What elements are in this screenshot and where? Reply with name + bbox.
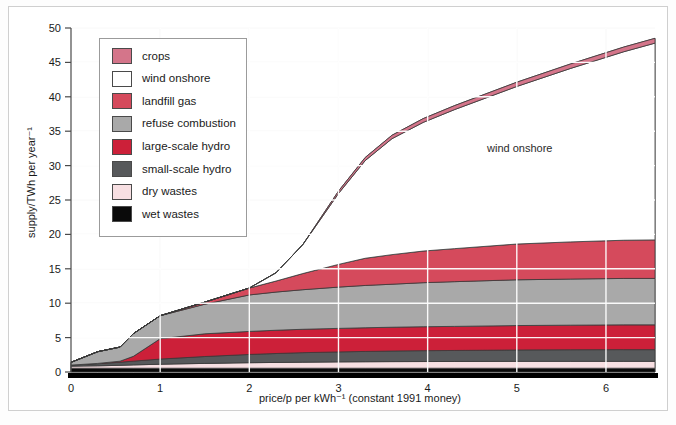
legend-item-label: wet wastes xyxy=(142,209,199,221)
legend-swatch-icon xyxy=(112,161,132,177)
annotation-wind-onshore-text: wind onshore xyxy=(487,142,552,154)
chart-figure: 051015202530354045500123456 supply/TWh p… xyxy=(0,0,676,425)
y-tick-label: 45 xyxy=(49,56,61,68)
y-tick-label: 30 xyxy=(49,160,61,172)
legend-swatch-icon xyxy=(112,139,132,155)
legend-item-label: large-scale hydro xyxy=(142,141,230,153)
legend-item[interactable]: refuse combustion xyxy=(100,113,246,136)
x-axis-title-text: price/p per kWh⁻¹ (constant 1991 money) xyxy=(259,392,461,404)
legend-item-label: crops xyxy=(142,51,170,63)
legend-swatch-icon xyxy=(112,71,132,87)
x-tick-label: 6 xyxy=(603,382,609,394)
legend-item[interactable]: large-scale hydro xyxy=(100,135,246,158)
legend-item-label: landfill gas xyxy=(142,96,196,108)
y-tick-label: 0 xyxy=(55,366,61,378)
legend-item[interactable]: small-scale hydro xyxy=(100,158,246,181)
legend-swatch-icon xyxy=(112,48,132,64)
legend-item[interactable]: crops xyxy=(100,45,246,68)
y-tick-label: 15 xyxy=(49,263,61,275)
y-tick-label: 35 xyxy=(49,125,61,137)
legend-swatch-icon xyxy=(112,206,132,222)
y-axis-title-text: supply/TWh per year⁻¹ xyxy=(25,127,37,238)
legend-item[interactable]: wind onshore xyxy=(100,68,246,91)
legend-item-label: wind onshore xyxy=(142,73,210,85)
x-tick-label: 0 xyxy=(68,382,74,394)
y-tick-label: 10 xyxy=(49,297,61,309)
area-wet-wastes xyxy=(71,368,655,372)
legend-swatch-icon xyxy=(112,93,132,109)
legend-item-label: dry wastes xyxy=(142,186,197,198)
legend-item[interactable]: wet wastes xyxy=(100,203,246,226)
legend-swatch-icon xyxy=(112,184,132,200)
chart-legend: cropswind onshorelandfill gasrefuse comb… xyxy=(99,38,247,237)
x-axis-line xyxy=(68,373,658,378)
y-tick-label: 50 xyxy=(49,22,61,34)
y-tick-label: 25 xyxy=(49,194,61,206)
legend-item-label: refuse combustion xyxy=(142,118,236,130)
y-tick-label: 20 xyxy=(49,228,61,240)
legend-item[interactable]: landfill gas xyxy=(100,90,246,113)
legend-item[interactable]: dry wastes xyxy=(100,181,246,204)
y-axis-title: supply/TWh per year⁻¹ xyxy=(25,108,38,258)
x-axis-title: price/p per kWh⁻¹ (constant 1991 money) xyxy=(150,392,570,405)
annotation-wind-onshore: wind onshore xyxy=(487,142,552,154)
legend-swatch-icon xyxy=(112,116,132,132)
legend-item-label: small-scale hydro xyxy=(142,164,231,176)
y-tick-label: 40 xyxy=(49,91,61,103)
y-tick-label: 5 xyxy=(55,332,61,344)
